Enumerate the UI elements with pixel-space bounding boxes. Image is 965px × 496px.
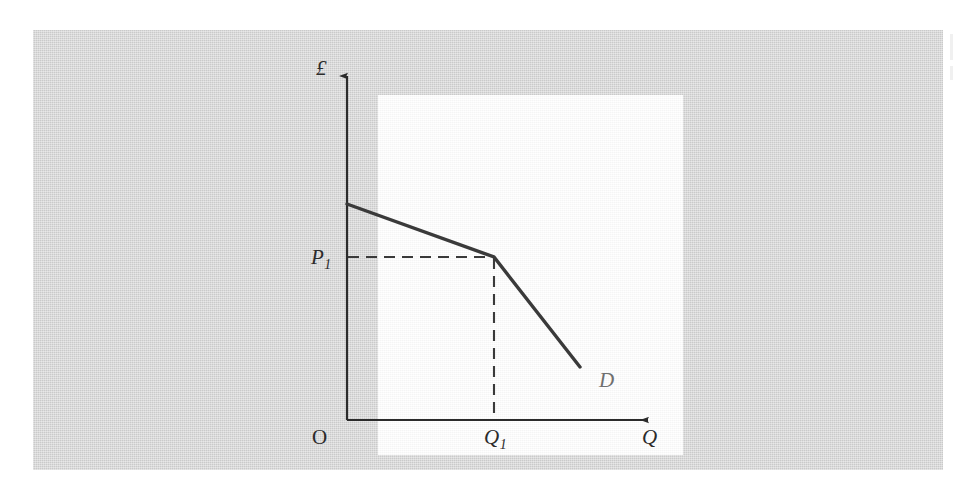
price-1-label: P1 xyxy=(311,247,331,272)
quantity-1-subscript: 1 xyxy=(500,437,507,452)
quantity-1-label: Q1 xyxy=(484,427,507,452)
origin-label: O xyxy=(312,427,327,448)
page-edge-artifact-lower xyxy=(950,66,953,80)
kinked-demand-chart xyxy=(0,0,965,496)
y-axis-label-pound: £ xyxy=(316,58,327,79)
x-axis-label-quantity: Q xyxy=(642,427,657,448)
page-background: £ P1 O Q1 Q D xyxy=(0,0,965,496)
price-1-subscript: 1 xyxy=(324,257,331,272)
price-1-base: P xyxy=(311,245,324,269)
demand-curve xyxy=(347,204,580,367)
page-edge-artifact-upper xyxy=(950,34,953,60)
quantity-1-base: Q xyxy=(484,425,499,449)
demand-curve-label: D xyxy=(599,370,614,391)
